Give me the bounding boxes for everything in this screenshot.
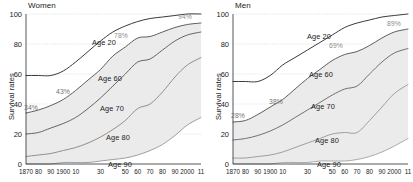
y-tick-label: 40 bbox=[0, 100, 22, 109]
annotation-percent: 78% bbox=[114, 32, 128, 39]
chart-figure: Women Survival rates 0204060801001870809… bbox=[0, 0, 413, 182]
x-tick-label: 10 bbox=[72, 168, 79, 175]
x-tick-label: 70 bbox=[147, 168, 154, 175]
series-label-age-60: Age 60 bbox=[98, 74, 122, 83]
y-tick-label: 20 bbox=[207, 130, 229, 139]
x-tick-label: 2000 bbox=[180, 168, 194, 175]
series-label-age-80: Age 80 bbox=[106, 133, 130, 142]
x-tick-label: 30 bbox=[97, 168, 104, 175]
x-tick-label: 90 bbox=[47, 168, 54, 175]
x-tick-label: 1870 bbox=[226, 168, 240, 175]
series-label-age-70: Age 70 bbox=[100, 104, 124, 113]
x-tick-label: 60 bbox=[341, 168, 348, 175]
y-tick-label: 80 bbox=[0, 40, 22, 49]
series-label-age-90: Age 90 bbox=[108, 160, 132, 169]
annotation-percent: 34% bbox=[24, 104, 38, 111]
panel-men: Men Survival rates 020406080100187080901… bbox=[207, 0, 413, 182]
y-tick-label: 60 bbox=[207, 70, 229, 79]
plot-area-women: 0204060801001870809019001030506070809020… bbox=[0, 0, 206, 182]
y-tick-label: 40 bbox=[207, 100, 229, 109]
annotation-percent: 89% bbox=[387, 20, 401, 27]
x-tick-label: 50 bbox=[122, 168, 129, 175]
panel-women: Women Survival rates 0204060801001870809… bbox=[0, 0, 206, 182]
x-tick-label: 2000 bbox=[387, 168, 401, 175]
x-tick-label: 1900 bbox=[263, 168, 277, 175]
series-label-age-80: Age 80 bbox=[315, 136, 339, 145]
x-tick-label: 30 bbox=[304, 168, 311, 175]
y-tick-label: 20 bbox=[0, 130, 22, 139]
annotation-percent: 28% bbox=[231, 112, 245, 119]
x-tick-label: 1900 bbox=[56, 168, 70, 175]
chart-svg-women bbox=[0, 0, 206, 182]
x-tick-label: 10 bbox=[279, 168, 286, 175]
x-tick-label: 80 bbox=[159, 168, 166, 175]
x-tick-label: 80 bbox=[366, 168, 373, 175]
y-tick-label: 80 bbox=[207, 40, 229, 49]
chart-svg-men bbox=[207, 0, 413, 182]
x-tick-label: 90 bbox=[254, 168, 261, 175]
annotation-percent: 38% bbox=[269, 98, 283, 105]
series-label-age-90: Age 90 bbox=[317, 160, 341, 169]
annotation-percent: 94% bbox=[178, 13, 192, 20]
x-tick-label: 11 bbox=[405, 168, 412, 175]
x-tick-label: 70 bbox=[354, 168, 361, 175]
series-label-age-70: Age 70 bbox=[311, 102, 335, 111]
plot-area-men: 0204060801001870809019001030506070809020… bbox=[207, 0, 413, 182]
y-tick-label: 100 bbox=[0, 10, 22, 19]
annotation-percent: 43% bbox=[56, 88, 70, 95]
y-tick-label: 100 bbox=[207, 10, 229, 19]
y-tick-label: 60 bbox=[0, 70, 22, 79]
x-tick-label: 50 bbox=[329, 168, 336, 175]
annotation-percent: 69% bbox=[329, 42, 343, 49]
series-label-age-20: Age 20 bbox=[307, 32, 331, 41]
x-tick-label: 80 bbox=[242, 168, 249, 175]
series-label-age-20: Age 20 bbox=[92, 38, 116, 47]
x-tick-label: 90 bbox=[171, 168, 178, 175]
x-tick-label: 90 bbox=[378, 168, 385, 175]
x-tick-label: 60 bbox=[134, 168, 141, 175]
x-tick-label: 11 bbox=[198, 168, 205, 175]
x-tick-label: 1870 bbox=[19, 168, 33, 175]
x-tick-label: 80 bbox=[35, 168, 42, 175]
series-label-age-60: Age 60 bbox=[309, 70, 333, 79]
